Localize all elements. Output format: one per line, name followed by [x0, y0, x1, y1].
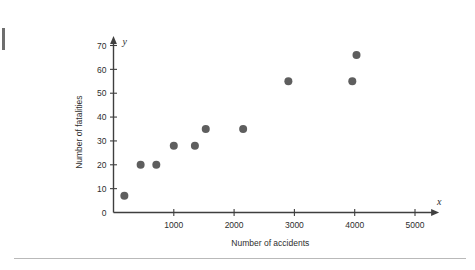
x-axis-tick-label: 5000 — [406, 220, 425, 230]
data-point — [239, 125, 247, 133]
data-point — [152, 161, 160, 169]
x-axis-symbol-label: x — [436, 196, 442, 207]
x-axis-title: Number of accidents — [231, 238, 309, 248]
x-axis-tick-label: 4000 — [345, 220, 364, 230]
scatter-plot-figure: 10002000300040005000010203040506070xyNum… — [0, 0, 475, 270]
data-point — [120, 192, 128, 200]
x-axis-tick-label: 3000 — [285, 220, 304, 230]
x-axis-tick-label: 2000 — [225, 220, 244, 230]
y-axis-tick-label: 30 — [97, 136, 107, 146]
data-point — [137, 161, 145, 169]
y-axis-tick-label: 40 — [97, 112, 107, 122]
y-axis-tick-label: 60 — [97, 65, 107, 75]
y-axis-arrow-icon — [110, 36, 117, 44]
data-point — [202, 125, 210, 133]
data-point — [191, 142, 199, 150]
footer-divider — [14, 258, 466, 259]
scatter-plot-canvas: 10002000300040005000010203040506070xyNum… — [0, 0, 475, 270]
y-axis-tick-label: 10 — [97, 184, 107, 194]
y-axis-title: Number of fatalities — [74, 96, 84, 169]
y-axis-tick-label: 0 — [102, 208, 107, 218]
data-point — [284, 77, 292, 85]
data-point — [170, 142, 178, 150]
y-axis-tick-label: 50 — [97, 88, 107, 98]
x-axis-arrow-icon — [431, 209, 439, 216]
y-axis-tick-label: 70 — [97, 41, 107, 51]
x-axis-tick-label: 1000 — [164, 220, 183, 230]
y-axis-symbol-label: y — [122, 36, 128, 47]
data-point — [353, 51, 361, 59]
y-axis-tick-label: 20 — [97, 160, 107, 170]
data-point — [348, 77, 356, 85]
